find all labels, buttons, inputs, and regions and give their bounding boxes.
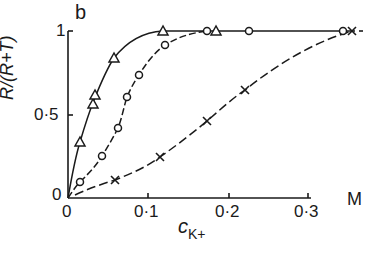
x-tick-0: 0 bbox=[62, 203, 71, 220]
circle-marker bbox=[340, 28, 347, 35]
cross-marker bbox=[111, 176, 119, 184]
x-unit-label: M bbox=[347, 190, 362, 208]
x-axis-label: cK+ bbox=[178, 216, 206, 241]
x-axis-label-main: c bbox=[178, 215, 188, 237]
x-tick-0-1: 0·1 bbox=[134, 203, 159, 220]
circle-marker bbox=[246, 28, 253, 35]
x-tick-0-2: 0·2 bbox=[215, 203, 240, 220]
x-axis-label-sub: K+ bbox=[188, 226, 206, 242]
y-tick-0: 0 bbox=[52, 186, 61, 203]
y-axis-label: R/(R+T) bbox=[0, 36, 16, 101]
circle-marker bbox=[124, 94, 131, 101]
cross-marker bbox=[203, 117, 211, 125]
cross-marker bbox=[156, 153, 164, 161]
cross-marker bbox=[241, 86, 249, 94]
triangle-marker bbox=[90, 90, 100, 99]
panel-label: b bbox=[75, 2, 86, 22]
triangle-curve bbox=[68, 31, 355, 198]
circle-markers bbox=[77, 28, 347, 186]
triangle-marker bbox=[88, 99, 98, 108]
y-tick-1: 1 bbox=[56, 22, 65, 39]
circle-marker bbox=[115, 125, 122, 132]
x-tick-0-3: 0·3 bbox=[294, 203, 319, 220]
triangle-marker bbox=[75, 137, 85, 146]
axes bbox=[68, 31, 311, 198]
cross-markers bbox=[111, 27, 363, 184]
circle-marker bbox=[99, 153, 106, 160]
circle-marker bbox=[162, 42, 169, 49]
circle-marker bbox=[77, 179, 84, 186]
y-tick-0-5: 0·5 bbox=[34, 106, 59, 123]
triangle-markers bbox=[75, 26, 221, 146]
circle-marker bbox=[136, 72, 143, 79]
circle-marker bbox=[204, 28, 211, 35]
